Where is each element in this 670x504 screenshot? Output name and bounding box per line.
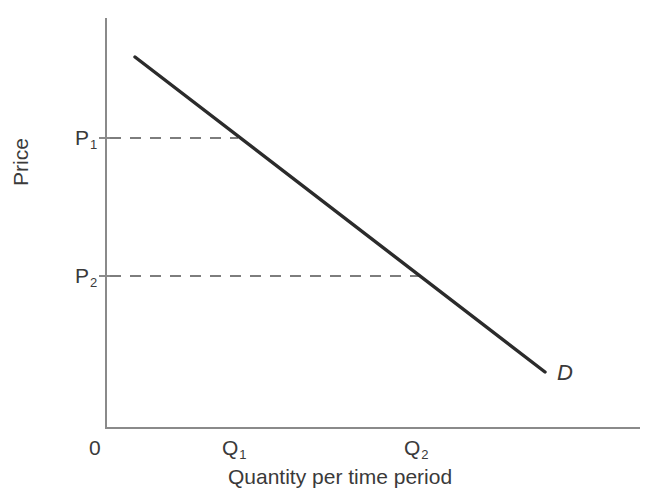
q1-base: Q [222, 436, 238, 459]
y-tick-label-p2: P2 [75, 265, 96, 286]
x-tick-label-q1: Q1 [222, 437, 246, 458]
demand-curve-line [135, 57, 545, 372]
q2-base: Q [404, 436, 420, 459]
x-tick-label-q2: Q2 [404, 437, 428, 458]
demand-curve-figure: Price Quantity per time period 0 P1 P2 Q… [0, 0, 670, 504]
p2-subscript: 2 [90, 275, 97, 290]
p1-base: P [75, 126, 89, 149]
y-tick-label-p1: P1 [75, 127, 96, 148]
y-axis-title: Price [10, 138, 31, 186]
demand-curve-label: D [557, 362, 573, 384]
p1-subscript: 1 [90, 137, 97, 152]
x-axis-title: Quantity per time period [228, 466, 452, 487]
chart-canvas [0, 0, 670, 504]
q2-subscript: 2 [421, 447, 428, 462]
p2-base: P [75, 264, 89, 287]
q1-subscript: 1 [239, 447, 246, 462]
origin-label: 0 [89, 437, 101, 458]
